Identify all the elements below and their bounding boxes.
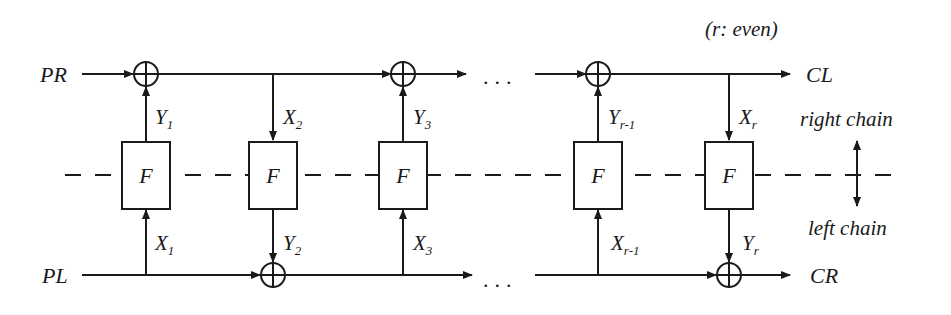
label-x2: X2 — [282, 105, 303, 132]
ellipsis-top: ... — [483, 64, 518, 89]
input-pr-label: PR — [39, 62, 67, 87]
ellipsis-bottom: ... — [483, 267, 518, 292]
feistel-diagram: (r: even) — [0, 0, 951, 315]
f-box-3: F — [379, 142, 427, 209]
svg-text:F: F — [265, 163, 280, 188]
label-y1: Y1 — [155, 105, 173, 132]
output-cr-label: CR — [810, 263, 839, 288]
f-box-2: F — [249, 142, 297, 209]
left-chain-label: left chain — [808, 216, 887, 240]
svg-text:F: F — [395, 163, 410, 188]
xor-node-bottom-2 — [261, 263, 285, 287]
xor-node-top-r-1 — [586, 62, 610, 86]
right-chain-label: right chain — [800, 107, 893, 131]
input-pl-label: PL — [41, 263, 68, 288]
xor-node-top-1 — [134, 62, 158, 86]
f-box-r: F — [705, 142, 753, 209]
output-cl-label: CL — [806, 62, 833, 87]
label-x-r-1: Xr-1 — [610, 231, 639, 258]
f-box-1: F — [122, 142, 170, 209]
xor-node-top-3 — [391, 62, 415, 86]
label-y-r: Yr — [742, 231, 760, 258]
svg-text:F: F — [138, 163, 153, 188]
label-x3: X3 — [412, 231, 433, 258]
round-count-note: (r: even) — [705, 17, 778, 41]
label-y-r-1: Yr-1 — [608, 105, 635, 132]
label-y3: Y3 — [413, 105, 432, 132]
label-x-r: Xr — [738, 105, 758, 132]
xor-node-bottom-r — [717, 263, 741, 287]
label-y2: Y2 — [283, 231, 302, 258]
svg-text:F: F — [721, 163, 736, 188]
f-box-r-1: F — [574, 142, 622, 209]
label-x1: X1 — [154, 231, 174, 258]
svg-text:F: F — [590, 163, 605, 188]
